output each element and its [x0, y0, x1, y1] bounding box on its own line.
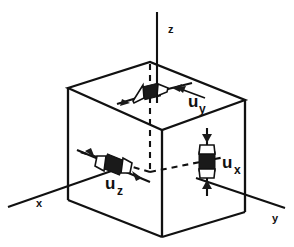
axis-label-x: x [36, 197, 43, 209]
cube-axes-diagram: u y u z [0, 0, 294, 247]
uz-label-subscript: z [117, 184, 123, 198]
uz-label-group: u z [105, 174, 123, 198]
uz-head-right [121, 158, 132, 173]
axis-label-y: y [272, 212, 279, 224]
figure-container: u y u z [0, 0, 294, 247]
vector-marker-uy [117, 83, 192, 106]
ux-label-group: u x [222, 153, 241, 177]
uy-label-base: u [188, 92, 198, 111]
axis-label-z: z [168, 23, 174, 35]
ux-body-core [199, 152, 215, 171]
uy-label-group: u y [176, 86, 206, 116]
uy-head-right [157, 84, 168, 96]
x-axis-line [8, 168, 120, 207]
uy-label-subscript: y [199, 102, 206, 116]
ux-label-subscript: x [234, 163, 241, 177]
cube-edge-bottom-left [68, 200, 162, 237]
uz-label-base: u [105, 174, 115, 193]
ux-head-bottom [199, 169, 215, 178]
axis-lines [8, 12, 285, 208]
y-axis-line [196, 178, 285, 208]
cube-edge-bottom-right [162, 212, 245, 237]
vector-marker-ux [199, 128, 215, 196]
ux-head-top [199, 145, 215, 154]
ux-arrowhead-top [202, 134, 212, 143]
uz-head-left [95, 156, 106, 171]
ux-label-base: u [222, 153, 232, 172]
uy-head-left [133, 85, 144, 103]
